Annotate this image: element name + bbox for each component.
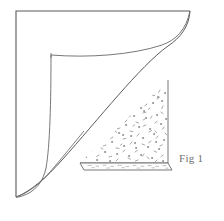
- figure-caption: Fig 1: [179, 152, 203, 165]
- concrete-slab-surface: [80, 80, 168, 163]
- figure-illustration: [0, 0, 224, 221]
- slab-front-edge-band: [80, 163, 172, 170]
- figure-container: Fig 1: [0, 0, 224, 221]
